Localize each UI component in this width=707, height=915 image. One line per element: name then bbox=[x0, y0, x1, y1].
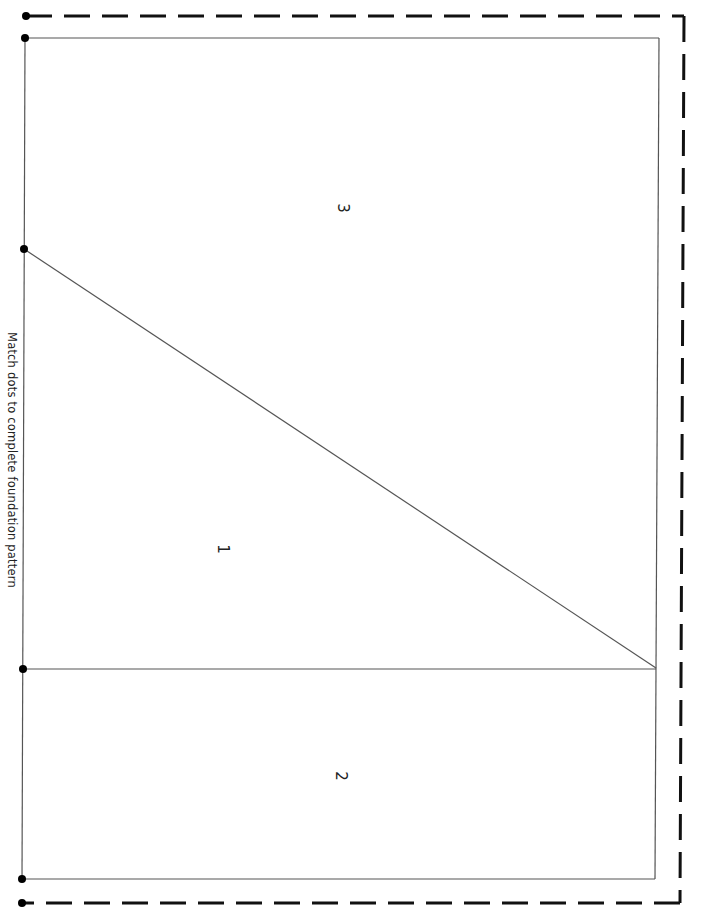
foundation-pattern bbox=[0, 0, 707, 915]
dot-bottom-dashed bbox=[18, 899, 26, 907]
dot-horizontal-start bbox=[19, 665, 27, 673]
dot-top-dashed bbox=[22, 12, 30, 20]
match-dots-instruction: Match dots to complete foundation patter… bbox=[5, 332, 19, 588]
dot-diagonal-start bbox=[20, 245, 28, 253]
seam-allowance-dashed-border bbox=[22, 16, 684, 903]
dot-bottom-corner bbox=[18, 875, 26, 883]
divider-diagonal bbox=[24, 249, 656, 668]
piece-number-3: 3 bbox=[334, 203, 352, 213]
piece-number-2: 2 bbox=[332, 771, 350, 781]
piece-number-1: 1 bbox=[214, 544, 232, 554]
dot-top-corner bbox=[21, 34, 29, 42]
